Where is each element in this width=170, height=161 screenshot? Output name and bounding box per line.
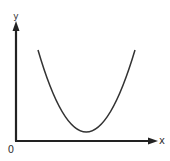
x-axis-label: x bbox=[159, 135, 165, 146]
origin-label: 0 bbox=[8, 144, 14, 155]
parabola-curve bbox=[38, 50, 135, 132]
parabola-diagram: y x 0 bbox=[0, 0, 170, 161]
y-axis-arrow-icon bbox=[13, 21, 20, 31]
x-axis-arrow-icon bbox=[148, 138, 158, 145]
y-axis-label: y bbox=[13, 11, 19, 21]
